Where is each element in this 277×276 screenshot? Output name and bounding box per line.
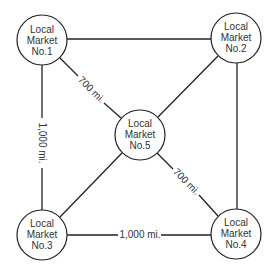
node-label-line: Local [30, 218, 54, 229]
node-market-2: Local Market No.2 [211, 13, 261, 63]
edge-label-m3-m4: 1,000 mi. [119, 229, 160, 240]
node-label-line: No.4 [225, 239, 247, 250]
node-label-line: Local [224, 21, 248, 32]
node-label-line: Local [128, 118, 152, 129]
edge-m1-m5 [60, 58, 78, 76]
node-label-line: No.2 [225, 43, 247, 54]
edge-m1-m5 [104, 103, 121, 118]
node-label-line: Market [27, 35, 58, 46]
edge-label-m1-m3: 1,000 mi. [37, 122, 48, 163]
market-network-diagram: 700 mi. 1,000 mi. 700 mi. 1,000 mi. Loca… [0, 0, 277, 276]
node-label-line: No.5 [129, 140, 151, 151]
edge-m5-m4 [157, 153, 173, 169]
node-market-3: Local Market No.3 [17, 210, 67, 260]
node-market-1: Local Market No.1 [17, 15, 67, 65]
node-label-line: No.3 [31, 240, 53, 251]
node-label-line: Market [27, 229, 58, 240]
node-label-line: No.1 [31, 46, 53, 57]
node-label-line: Local [30, 24, 54, 35]
node-market-4: Local Market No.4 [211, 209, 261, 259]
edge-label-m1-m5: 700 mi. [76, 74, 107, 105]
edge-m3-m5 [60, 153, 122, 217]
node-label-line: Market [125, 129, 156, 140]
node-label-line: Local [224, 217, 248, 228]
node-label-line: Market [221, 32, 252, 43]
edge-m2-m5 [158, 56, 218, 117]
node-label-line: Market [221, 228, 252, 239]
edge-label-m5-m4: 700 mi. [171, 166, 202, 197]
edge-m5-m4 [199, 195, 218, 216]
node-market-5: Local Market No.5 [115, 110, 165, 160]
